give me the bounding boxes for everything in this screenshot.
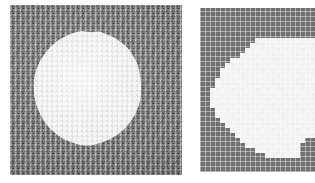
segmentation-cell <box>295 113 300 118</box>
segmentation-cell <box>260 148 265 153</box>
segmentation-cell <box>215 108 220 113</box>
segmentation-cell <box>210 88 215 93</box>
segmentation-cell <box>305 128 310 133</box>
segmentation-cell <box>255 58 260 63</box>
segmentation-cell <box>270 83 275 88</box>
segmentation-cell <box>250 133 255 138</box>
segmentation-cell <box>250 78 255 83</box>
segmentation-cell <box>225 73 230 78</box>
segmentation-cell <box>295 148 300 153</box>
segmentation-cell <box>265 123 270 128</box>
segmentation-cell <box>225 78 230 83</box>
segmentation-cell <box>245 68 250 73</box>
segmentation-cell <box>245 73 250 78</box>
segmentation-cell <box>290 128 295 133</box>
segmentation-cell <box>235 123 240 128</box>
segmentation-cell <box>305 53 310 58</box>
segmentation-cell <box>245 93 250 98</box>
segmentation-cell <box>285 73 290 78</box>
segmentation-cell <box>215 93 220 98</box>
segmentation-cell <box>280 83 285 88</box>
segmentation-cell <box>285 43 290 48</box>
segmentation-cell <box>310 38 315 43</box>
segmentation-cell <box>290 113 295 118</box>
segmentation-cell <box>285 108 290 113</box>
segmentation-cell <box>255 138 260 143</box>
segmentation-cell <box>240 128 245 133</box>
segmentation-cell <box>250 58 255 63</box>
segmentation-cell <box>295 58 300 63</box>
segmentation-cell <box>300 128 305 133</box>
segmentation-cell <box>265 98 270 103</box>
segmentation-cell <box>290 138 295 143</box>
segmentation-cell <box>265 83 270 88</box>
segmentation-cell <box>235 98 240 103</box>
segmentation-cell <box>285 63 290 68</box>
segmentation-cell <box>260 78 265 83</box>
segmentation-cell <box>290 53 295 58</box>
segmentation-cell <box>285 58 290 63</box>
segmentation-cell <box>245 63 250 68</box>
segmentation-cell <box>280 143 285 148</box>
segmentation-cell <box>220 108 225 113</box>
segmentation-cell <box>300 68 305 73</box>
segmentation-cell <box>255 93 260 98</box>
segmentation-cell <box>255 103 260 108</box>
segmentation-cell <box>265 53 270 58</box>
segmentation-cell <box>275 148 280 153</box>
segmentation-cell <box>275 98 280 103</box>
segmentation-cell <box>290 63 295 68</box>
segmentation-cell <box>280 78 285 83</box>
segmentation-cell <box>275 58 280 63</box>
segmentation-cell <box>270 78 275 83</box>
segmentation-cell <box>270 98 275 103</box>
segmentation-cell <box>270 88 275 93</box>
segmentation-cell <box>300 118 305 123</box>
segmentation-cell <box>295 78 300 83</box>
segmentation-cell <box>255 128 260 133</box>
segmentation-cell <box>295 108 300 113</box>
segmentation-cell <box>255 78 260 83</box>
segmentation-cell <box>260 98 265 103</box>
segmentation-cell <box>285 143 290 148</box>
segmentation-cell <box>220 78 225 83</box>
segmentation-cell <box>275 153 280 158</box>
segmentation-cell <box>275 93 280 98</box>
segmentation-cell <box>280 58 285 63</box>
segmentation-cell <box>230 63 235 68</box>
segmentation-cell <box>225 88 230 93</box>
segmentation-cell <box>275 38 280 43</box>
segmentation-cell <box>255 118 260 123</box>
segmentation-cell <box>230 88 235 93</box>
segmentation-cell <box>250 63 255 68</box>
segmentation-cell <box>310 118 315 123</box>
panel-original-texture: Original knitted texture with bright cir… <box>10 5 182 175</box>
segmentation-cell <box>270 38 275 43</box>
segmentation-cell <box>255 123 260 128</box>
segmentation-cell <box>290 118 295 123</box>
segmentation-cell <box>280 38 285 43</box>
segmentation-cell <box>285 103 290 108</box>
segmentation-cell <box>255 148 260 153</box>
segmentation-cell <box>280 68 285 73</box>
segmentation-cell <box>215 88 220 93</box>
segmentation-cell <box>285 133 290 138</box>
segmentation-cell <box>245 83 250 88</box>
segmentation-cell <box>260 93 265 98</box>
segmentation-cell <box>290 38 295 43</box>
segmentation-cell <box>240 103 245 108</box>
segmentation-cell <box>220 83 225 88</box>
segmentation-cell <box>270 73 275 78</box>
segmentation-cell <box>305 43 310 48</box>
segmentation-cell <box>250 128 255 133</box>
segmentation-cell <box>275 78 280 83</box>
segmentation-cell <box>275 83 280 88</box>
segmentation-cell <box>300 98 305 103</box>
segmentation-cell <box>310 133 315 138</box>
segmentation-cell <box>260 118 265 123</box>
segmentation-cell <box>250 93 255 98</box>
segmentation-cell <box>285 128 290 133</box>
segmentation-cell <box>305 103 310 108</box>
segmentation-cell <box>260 103 265 108</box>
segmentation-cell <box>305 98 310 103</box>
